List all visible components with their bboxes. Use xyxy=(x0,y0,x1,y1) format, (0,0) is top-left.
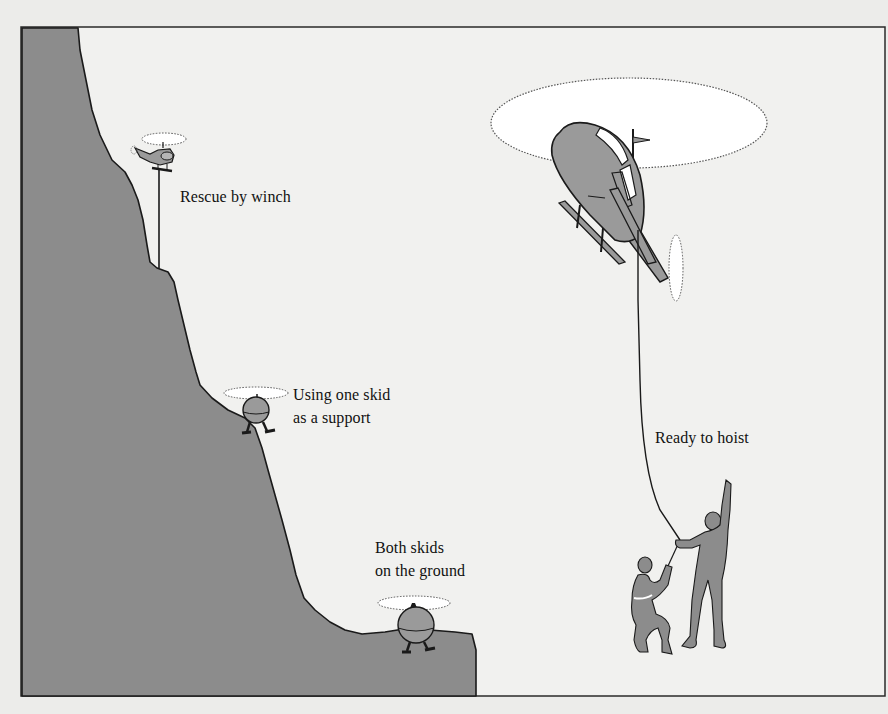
label-text: as a support xyxy=(293,406,390,429)
label-both-skids-ground: Both skids on the ground xyxy=(375,536,465,582)
label-text: Both skids xyxy=(375,536,465,559)
rotor-disc xyxy=(142,133,186,145)
tail-rotor-disc xyxy=(669,235,683,301)
label-text: Rescue by winch xyxy=(180,185,291,208)
label-text: on the ground xyxy=(375,559,465,582)
label-one-skid-support: Using one skid as a support xyxy=(293,383,390,429)
helicopter-rescue-illustration: Rescue by winch Using one skid as a supp… xyxy=(0,0,888,714)
label-ready-to-hoist: Ready to hoist xyxy=(655,426,749,449)
label-rescue-by-winch: Rescue by winch xyxy=(180,185,291,208)
label-text: Using one skid xyxy=(293,383,390,406)
label-text: Ready to hoist xyxy=(655,426,749,449)
